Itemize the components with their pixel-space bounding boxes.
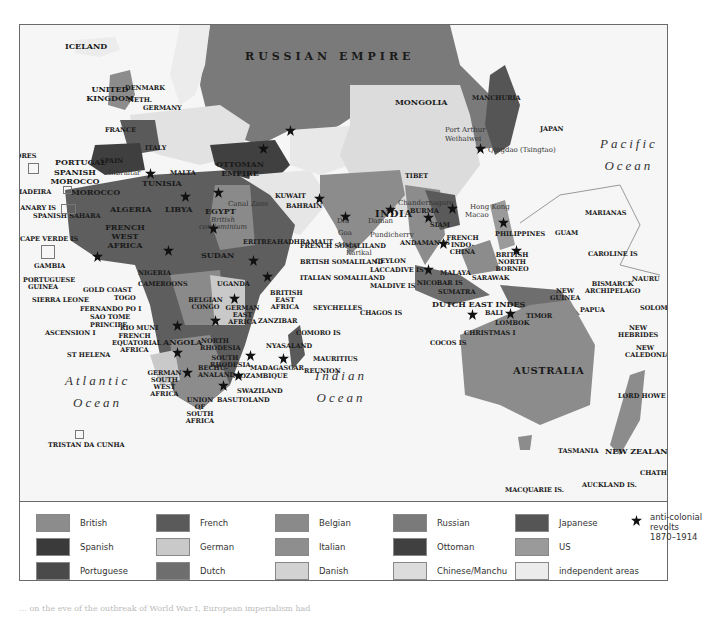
revolt-star-icon <box>314 193 325 204</box>
label-chatham: CHATHAM IS. <box>640 470 668 477</box>
label-azores: AZORES <box>19 153 37 160</box>
label-angola: ANGOLA <box>163 338 202 347</box>
label-malta: MALTA <box>170 170 196 177</box>
label-new-guinea: NEW GUINEA <box>550 288 580 302</box>
label-pundicherry: Pundicherry <box>370 232 414 239</box>
label-sarawak: SARAWAK <box>472 275 509 282</box>
label-siam: SIAM <box>430 222 450 229</box>
label-cameroons: CAMEROONS <box>138 281 188 288</box>
figure-caption: … on the eve of the outbreak of World Wa… <box>19 604 699 616</box>
label-timor: TIMOR <box>526 313 552 320</box>
legend-item-german: German <box>156 538 234 556</box>
label-togo: TOGO <box>114 295 136 302</box>
revolt-star-icon <box>423 212 434 223</box>
label-nigeria: NIGERIA <box>138 270 171 277</box>
label-port-arthur: Port Arthur <box>445 127 486 134</box>
label-italian-somaliland: ITALIAN SOMALILAND <box>300 275 385 282</box>
revolt-star-icon <box>213 187 224 198</box>
label-guam: GUAM <box>555 230 578 237</box>
label-union-south-africa: UNION OF SOUTH AFRICA <box>185 397 215 425</box>
swatch <box>156 538 190 556</box>
label-spanish-sahara: SPANISH SAHARA <box>33 213 101 220</box>
swatch <box>275 562 309 580</box>
label-japan: JAPAN <box>540 126 564 133</box>
swatch <box>156 514 190 532</box>
revolt-star-icon <box>467 309 478 320</box>
label-auckland: AUCKLAND IS. <box>582 482 637 489</box>
label-madagascar: MADAGASCAR <box>250 365 304 372</box>
label-british-east-africa: BRITISH EAST AFRICA <box>270 290 300 311</box>
inset-box-cape-verde <box>41 245 55 259</box>
label-papua: PAPUA <box>580 307 605 314</box>
revolt-star-icon <box>285 125 296 136</box>
inset-box-tristan <box>75 430 84 439</box>
revolt-star-icon <box>145 168 156 179</box>
label-sierra-leone: SIERRA LEONE <box>32 297 89 304</box>
label-iceland: ICELAND <box>65 42 107 51</box>
revolt-star-icon <box>475 143 486 154</box>
label-canal-zone: Canal Zone <box>228 201 268 208</box>
label-mahe: Mahe <box>338 242 358 249</box>
revolts-label-years: 1870–1914 <box>650 532 702 542</box>
swatch <box>393 514 427 532</box>
swatch <box>393 538 427 556</box>
label-gold-coast: GOLD COAST <box>83 287 132 294</box>
inset-box-azores <box>28 163 39 174</box>
label-marianas: MARIANAS <box>585 210 626 217</box>
label-denmark: DENMARK <box>125 85 165 92</box>
label-macquarie: MACQUARIE IS. <box>505 487 564 494</box>
revolts-label-line1: anti-colonial <box>650 512 702 522</box>
label-french-equatorial-africa: FRENCH EQUATORIAL AFRICA <box>112 333 157 354</box>
label-zanzibar: ZANZIBAR <box>258 318 297 325</box>
label-algeria: ALGERIA <box>110 205 151 214</box>
label-uganda: UGANDA <box>217 281 250 288</box>
label-chagos: CHAGOS IS <box>360 310 402 317</box>
label-tristan: TRISTAN DA CUNHA <box>48 442 125 449</box>
label-france: FRANCE <box>105 127 136 134</box>
swatch <box>515 538 549 556</box>
revolt-star-icon <box>245 350 256 361</box>
label-gibraltar: Gibraltar <box>108 170 140 177</box>
label-laccadive: LACCADIVE IS <box>370 267 424 274</box>
label-hong-kong: Hong Kong <box>470 204 510 211</box>
revolt-star-icon <box>180 191 191 202</box>
label-british-condominium: British condominium <box>198 217 248 231</box>
label-sao-tome: SAO TOME <box>90 314 130 321</box>
legend-item-portuguese: Portuguese <box>36 562 128 580</box>
label-morocco: MOROCCO <box>71 188 120 197</box>
revolt-star-icon <box>218 380 229 391</box>
revolt-star-icon <box>248 255 259 266</box>
label-sudan: SUDAN <box>201 251 234 260</box>
legend-item-independent: independent areas <box>515 562 639 580</box>
label-italy: ITALY <box>145 145 166 152</box>
ocean-label-atlantic: AtlanticOcean <box>65 370 130 414</box>
label-portugal: PORTUGAL <box>55 158 106 167</box>
label-kuwait: KUWAIT <box>275 193 306 200</box>
label-basutoland: BASUTOLAND <box>217 397 270 404</box>
swatch <box>393 562 427 580</box>
label-belgian-congo: BELGIAN CONGO <box>188 297 223 311</box>
revolt-star-icon <box>229 293 240 304</box>
revolt-star-icon <box>182 367 193 378</box>
swatch <box>156 562 190 580</box>
label-egypt: EGYPT <box>205 207 236 216</box>
label-french-west-africa: FRENCH WEST AFRICA <box>100 223 150 250</box>
legend-item-us: US <box>515 538 571 556</box>
swatch <box>515 514 549 532</box>
revolt-star-icon <box>233 370 244 381</box>
label-caroline: CAROLINE IS <box>588 251 638 258</box>
swatch <box>36 538 70 556</box>
label-lombok: LOMBOK <box>495 320 529 327</box>
label-libya: LIBYA <box>165 205 192 214</box>
label-new-hebrides: NEW HEBRIDES <box>618 325 658 339</box>
label-fernando-po: FERNANDO PO I <box>80 306 141 313</box>
label-weihaiwei: Weihaiwei <box>445 136 481 143</box>
revolt-star-icon <box>163 245 174 256</box>
label-german-east-africa: GERMAN EAST AFRICA <box>225 305 260 326</box>
label-comoro: COMORO IS <box>296 330 341 337</box>
label-mongolia: MONGOLIA <box>395 98 448 107</box>
label-mauritius: MAURITIUS <box>313 356 358 363</box>
label-rio-muni: RIO MUNI <box>120 325 158 332</box>
label-tibet: TIBET <box>405 173 428 180</box>
revolt-star-icon <box>262 271 273 282</box>
